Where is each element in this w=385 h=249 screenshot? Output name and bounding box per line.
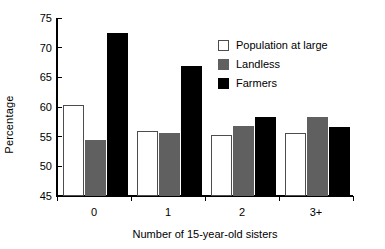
y-axis-tick-label: 45 [40,190,57,202]
bar [329,127,350,196]
x-axis-tick-mark [353,196,354,201]
y-axis-tick-mark [57,107,62,108]
y-axis-tick-mark [57,136,62,137]
y-axis-tick-label: 75 [40,12,57,24]
legend-item-label: Farmers [236,77,277,89]
legend-swatch-icon [218,78,229,89]
y-axis-tick-label: 55 [40,131,57,143]
bar [85,140,106,196]
legend-item: Population at large [218,37,328,53]
legend-swatch-icon [218,59,229,70]
legend-item-label: Population at large [236,39,328,51]
y-axis-tick-mark [57,77,62,78]
x-axis-tick-mark [131,196,132,201]
x-axis-tick-mark [279,196,280,201]
legend-item-label: Landless [236,58,280,70]
bar [233,126,254,196]
bar [137,131,158,196]
bar [63,105,84,196]
y-axis-tick-mark [57,166,62,167]
x-axis-tick-label: 3+ [310,206,323,218]
legend-item: Landless [218,56,328,72]
y-axis-tick-label: 65 [40,71,57,83]
legend-swatch-icon [218,40,229,51]
bar [181,66,202,196]
x-axis-tick-label: 0 [91,206,97,218]
legend-item: Farmers [218,75,328,91]
legend: Population at largeLandlessFarmers [218,37,328,94]
y-axis-title: Percentage [0,0,18,249]
x-axis-tick-label: 1 [165,206,171,218]
bar [211,135,232,196]
bar [307,117,328,196]
y-axis-tick-label: 60 [40,101,57,113]
x-axis-tick-mark [205,196,206,201]
y-axis-tick-label: 50 [40,160,57,172]
y-axis-tick-mark [57,47,62,48]
bar [107,33,128,196]
bar-chart: Percentage 45505560657075 0123+ Number o… [0,0,385,249]
y-axis-tick-label: 70 [40,42,57,54]
x-axis-tick-mark [57,196,58,201]
bar [285,133,306,196]
x-axis-title: Number of 15-year-old sisters [57,228,353,240]
y-axis-tick-mark [57,18,62,19]
x-axis-tick-label: 2 [239,206,245,218]
bar [159,133,180,196]
bar [255,117,276,196]
